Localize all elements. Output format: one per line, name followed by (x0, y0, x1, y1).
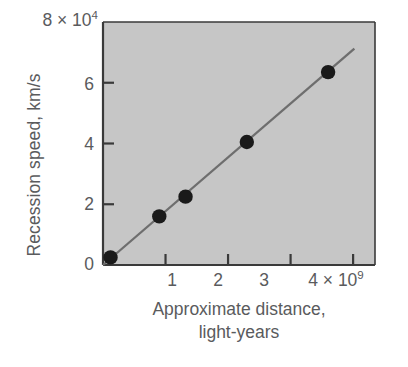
x-axis-title-line1: Approximate distance, (103, 298, 375, 321)
x-axis-title: Approximate distance, light-years (103, 298, 375, 344)
x-axis-title-line2: light-years (103, 321, 375, 344)
hubble-diagram-figure: Recession speed, km/s 8 × 104 6 4 2 0 1 … (0, 0, 408, 367)
data-point-5 (321, 65, 335, 79)
data-point-1 (103, 250, 117, 264)
data-point-2 (152, 209, 166, 223)
data-point-3 (178, 189, 192, 203)
data-point-4 (240, 135, 254, 149)
